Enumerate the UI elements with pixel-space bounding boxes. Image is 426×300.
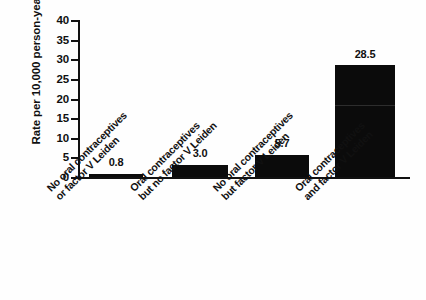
bar-value-label-3: 28.5 xyxy=(355,48,376,60)
y-axis-title: Rate per 10,000 person-years xyxy=(30,0,42,146)
y-tick-label-30: 30 xyxy=(57,53,69,65)
y-tick-label-15: 15 xyxy=(57,112,69,124)
y-tick-label-10: 10 xyxy=(57,132,69,144)
y-tick-label-40: 40 xyxy=(57,14,69,26)
bar-value-label-0: 0.8 xyxy=(109,156,124,168)
y-tick-label-25: 25 xyxy=(57,73,69,85)
chart-figure: Rate per 10,000 person-years 0 5 10 15 2… xyxy=(0,0,426,300)
y-tick-label-35: 35 xyxy=(57,34,69,46)
y-tick-label-20: 20 xyxy=(57,93,69,105)
